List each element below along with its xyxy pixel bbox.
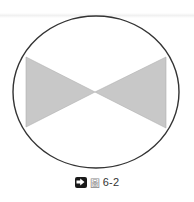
figure-caption: 圖 6-2 <box>0 175 194 189</box>
figure-number: 6-2 <box>103 176 120 188</box>
arrow-right-box-icon <box>75 177 87 188</box>
figure-label-prefix: 圖 <box>90 175 100 190</box>
figure-diagram <box>0 0 194 202</box>
